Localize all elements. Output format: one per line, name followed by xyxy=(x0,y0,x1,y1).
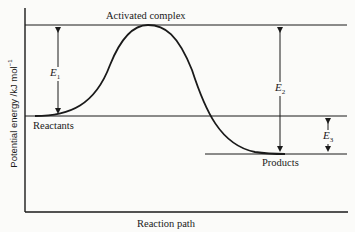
products-label: Products xyxy=(262,158,299,169)
e2-label: E2 xyxy=(274,82,286,96)
e1-label: E1 xyxy=(49,67,61,81)
reactants-label: Reactants xyxy=(33,121,74,132)
e3-label: E3 xyxy=(322,130,334,144)
energy-diagram xyxy=(0,0,355,232)
x-axis-label: Reaction path xyxy=(137,219,195,230)
activated-complex-label: Activated complex xyxy=(106,11,186,22)
y-axis-label: Potential energy /kJ mol−1 xyxy=(7,49,18,179)
energy-curve xyxy=(35,25,285,154)
